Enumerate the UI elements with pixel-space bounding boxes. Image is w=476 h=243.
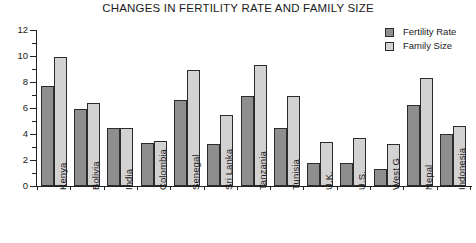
x-tick — [37, 186, 38, 190]
x-tick — [470, 186, 471, 190]
y-tick-major — [30, 30, 36, 31]
chart-title: CHANGES IN FERTILITY RATE AND FAMILY SIZ… — [0, 2, 476, 14]
chart-legend: Fertility RateFamily Size — [385, 26, 475, 54]
x-tick — [104, 186, 105, 190]
bar-fertility-rate — [41, 86, 54, 186]
legend-swatch-icon — [385, 28, 394, 37]
bar-fertility-rate — [274, 128, 287, 187]
x-axis-label: U.K. — [324, 171, 334, 190]
legend-item-label: Fertility Rate — [403, 27, 456, 37]
y-tick-minor — [32, 121, 36, 122]
x-axis-label: Tunisia — [291, 159, 301, 190]
y-tick-major — [30, 160, 36, 161]
y-tick-minor — [32, 147, 36, 148]
y-tick-label: 8 — [2, 77, 28, 87]
x-tick — [270, 186, 271, 190]
x-axis-label: Bolivia — [91, 161, 101, 190]
y-axis-line — [36, 30, 37, 187]
bar-fertility-rate — [440, 134, 453, 186]
y-tick-major — [30, 82, 36, 83]
x-tick — [303, 186, 304, 190]
bar-fertility-rate — [207, 144, 220, 186]
bar-group — [107, 30, 133, 186]
x-tick — [370, 186, 371, 190]
bar-fertility-rate — [141, 143, 154, 186]
legend-item: Fertility Rate — [385, 26, 475, 38]
x-axis-label: U.S. — [357, 171, 367, 190]
x-tick — [170, 186, 171, 190]
y-tick-label: 12 — [2, 25, 28, 35]
y-tick-minor — [32, 43, 36, 44]
y-tick-minor — [32, 69, 36, 70]
x-axis-label: Sri Lanka — [224, 149, 234, 190]
x-tick — [137, 186, 138, 190]
bar-fertility-rate — [307, 163, 320, 186]
x-tick — [437, 186, 438, 190]
x-axis-label: Nepal — [424, 165, 434, 190]
y-tick-major — [30, 186, 36, 187]
bar-fertility-rate — [107, 128, 120, 187]
bar-fertility-rate — [241, 96, 254, 186]
bar-fertility-rate — [174, 100, 187, 186]
x-axis-label: West G — [391, 158, 401, 190]
x-axis-label: Indonesia — [457, 148, 467, 190]
x-tick — [70, 186, 71, 190]
y-tick-label: 6 — [2, 103, 28, 113]
y-tick-label: 0 — [2, 181, 28, 191]
y-tick-major — [30, 108, 36, 109]
legend-swatch-icon — [385, 42, 394, 51]
y-tick-label: 2 — [2, 155, 28, 165]
bar-fertility-rate — [374, 169, 387, 186]
x-tick — [337, 186, 338, 190]
x-axis-label: Tanzania — [258, 151, 268, 190]
bar-fertility-rate — [407, 105, 420, 186]
y-tick-label: 10 — [2, 51, 28, 61]
x-axis-label: Kenya — [58, 163, 68, 190]
x-tick — [237, 186, 238, 190]
bar-fertility-rate — [74, 109, 87, 186]
y-axis-labels: 024681012 — [0, 0, 28, 243]
x-tick — [204, 186, 205, 190]
bar-group — [307, 30, 333, 186]
legend-item: Family Size — [385, 40, 475, 52]
y-tick-major — [30, 56, 36, 57]
x-axis-label: Colombia — [158, 149, 168, 190]
x-axis-line — [36, 186, 472, 187]
bar-group — [340, 30, 366, 186]
x-axis-label: India — [124, 169, 134, 190]
bar-fertility-rate — [340, 163, 353, 186]
fertility-family-bar-chart: CHANGES IN FERTILITY RATE AND FAMILY SIZ… — [0, 0, 476, 243]
x-tick — [403, 186, 404, 190]
y-tick-major — [30, 134, 36, 135]
y-tick-minor — [32, 173, 36, 174]
legend-item-label: Family Size — [403, 41, 452, 51]
x-axis-label: Senegal — [191, 154, 201, 190]
y-tick-label: 4 — [2, 129, 28, 139]
y-tick-minor — [32, 95, 36, 96]
